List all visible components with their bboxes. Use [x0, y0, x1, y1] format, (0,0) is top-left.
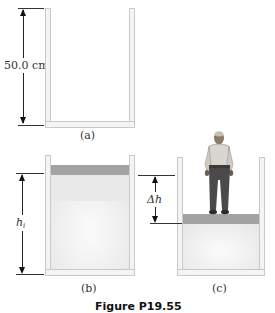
- dimension-label-hi: hi: [16, 215, 25, 231]
- cylinder-b-right-wall: [129, 155, 135, 276]
- cylinder-a-interior: [51, 8, 129, 121]
- arrow-down-icon: [152, 216, 158, 223]
- dimension-label-delta-h: Δh: [147, 192, 162, 207]
- gas-c: [183, 224, 259, 269]
- figure-caption: Figure P19.55: [95, 300, 182, 313]
- dim-a-bottom-extension: [18, 125, 44, 126]
- panel-b-label: (b): [81, 282, 97, 295]
- gas-b-upper: [51, 175, 129, 201]
- piston-b: [51, 165, 129, 175]
- cylinder-c-right-wall: [259, 157, 265, 276]
- dim-b-bottom-extension: [16, 274, 44, 275]
- arrow-down-icon: [19, 267, 25, 274]
- person-icon: [200, 130, 236, 216]
- arrow-up-icon: [20, 9, 26, 16]
- arrow-up-icon: [19, 174, 25, 181]
- cylinder-b-bottom: [45, 269, 135, 276]
- panel-c-label: (c): [212, 282, 227, 295]
- arrow-down-icon: [20, 117, 26, 124]
- dimension-label-50cm: 50.0 cm: [4, 58, 49, 73]
- dim-c-bottom-extension: [150, 223, 182, 224]
- arrow-up-icon: [152, 176, 158, 183]
- hi-subscript: i: [23, 222, 25, 230]
- cylinder-c-bottom: [177, 269, 265, 276]
- cylinder-a-bottom: [45, 121, 135, 128]
- panel-a-label: (a): [80, 129, 95, 142]
- cylinder-a-right-wall: [129, 8, 135, 128]
